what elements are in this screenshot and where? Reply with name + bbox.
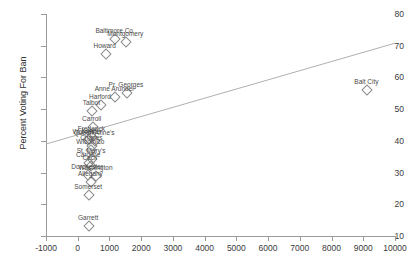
x-tick xyxy=(363,236,364,241)
y-tick-label: 50 xyxy=(366,105,404,114)
x-tick xyxy=(395,236,396,241)
x-tick xyxy=(109,236,110,241)
x-tick xyxy=(236,236,237,241)
y-tick xyxy=(41,204,46,205)
data-point[interactable] xyxy=(362,84,373,95)
y-tick-label: 20 xyxy=(366,200,404,209)
data-point-label: Wicomico xyxy=(30,139,150,146)
y-tick xyxy=(41,77,46,78)
y-tick-label: 10 xyxy=(366,232,404,241)
data-point[interactable] xyxy=(100,49,111,60)
x-tick-label: 10000 xyxy=(375,244,411,253)
x-tick xyxy=(300,236,301,241)
data-point-label: Cecil xyxy=(30,155,150,162)
data-point-label: Anne Arundel xyxy=(54,86,174,93)
x-tick xyxy=(332,236,333,241)
x-tick xyxy=(205,236,206,241)
data-point-label: Talbot xyxy=(31,100,151,107)
data-point-label: Montgomery xyxy=(65,31,185,38)
y-tick-label: 40 xyxy=(366,137,404,146)
x-axis-line xyxy=(46,236,395,237)
y-tick-label: 30 xyxy=(366,169,404,178)
x-tick xyxy=(141,236,142,241)
data-point-label: Somerset xyxy=(28,184,148,191)
data-point-label: Garrett xyxy=(28,215,148,222)
x-tick xyxy=(78,236,79,241)
y-tick xyxy=(41,109,46,110)
x-tick xyxy=(46,236,47,241)
y-tick xyxy=(41,14,46,15)
y-axis-title: Percent Voting For Ban xyxy=(18,28,28,178)
data-point-label: Howard xyxy=(45,43,165,50)
x-tick xyxy=(268,236,269,241)
data-point[interactable] xyxy=(84,189,95,200)
data-point-label: Carroll xyxy=(32,116,152,123)
y-tick-label: 80 xyxy=(366,10,404,19)
data-point-label: Balt City xyxy=(306,79,411,86)
data-point-label: Allegany xyxy=(30,171,150,178)
data-point[interactable] xyxy=(84,221,95,232)
x-tick xyxy=(173,236,174,241)
y-tick-label: 70 xyxy=(366,42,404,51)
